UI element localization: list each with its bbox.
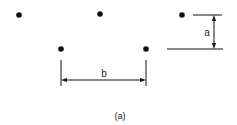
lattice-diagram: b a (a): [0, 0, 237, 125]
dimension-a-label: a: [204, 27, 210, 38]
dimension-b: b: [61, 60, 146, 86]
dimension-b-label: b: [101, 68, 107, 79]
dimension-a: a: [167, 15, 223, 49]
lattice-point-top-right: [179, 12, 185, 18]
lattice-point-top-left: [16, 12, 22, 18]
lattice-point-bottom-left: [58, 46, 64, 52]
figure-caption: (a): [115, 111, 126, 121]
lattice-point-top-middle: [97, 11, 103, 17]
lattice-point-bottom-right: [143, 46, 149, 52]
